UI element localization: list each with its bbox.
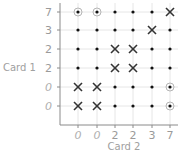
dot-icon <box>113 104 116 107</box>
dot-icon <box>76 66 79 69</box>
y-tick-label: 3 <box>45 24 52 37</box>
x-tick-label: 0 <box>75 129 82 142</box>
y-tick-label: 0 <box>45 81 52 94</box>
dot-icon <box>150 104 153 107</box>
dot-icon <box>150 47 153 50</box>
marks <box>74 8 174 110</box>
dot-icon <box>150 10 153 13</box>
dot-icon <box>113 28 116 31</box>
ticks: 732200002237 <box>45 6 174 142</box>
dot-icon <box>168 28 171 31</box>
y-axis-label: Card 1 <box>3 62 36 73</box>
y-tick-label: 2 <box>45 62 52 75</box>
y-tick-label: 2 <box>45 43 52 56</box>
dot-icon <box>95 28 98 31</box>
dot-icon <box>95 47 98 50</box>
dot-icon <box>113 85 116 88</box>
dot-icon <box>168 66 171 69</box>
dot-icon <box>131 104 134 107</box>
dot-icon <box>113 10 116 13</box>
dot-icon <box>76 28 79 31</box>
dot-icon <box>168 47 171 50</box>
dot-icon <box>76 47 79 50</box>
dot-icon <box>131 85 134 88</box>
dot-icon <box>150 85 153 88</box>
x-tick-label: 0 <box>94 129 101 142</box>
y-tick-label: 7 <box>45 6 52 19</box>
x-tick-label: 3 <box>149 129 156 142</box>
x-tick-label: 7 <box>167 129 174 142</box>
y-tick-label: 0 <box>45 100 52 113</box>
dot-icon <box>131 10 134 13</box>
x-axis-label: Card 2 <box>108 141 141 152</box>
dot-icon <box>131 28 134 31</box>
dot-icon <box>150 66 153 69</box>
dot-icon <box>95 66 98 69</box>
card-outcome-grid: 732200002237 Card 1 Card 2 <box>0 0 182 155</box>
